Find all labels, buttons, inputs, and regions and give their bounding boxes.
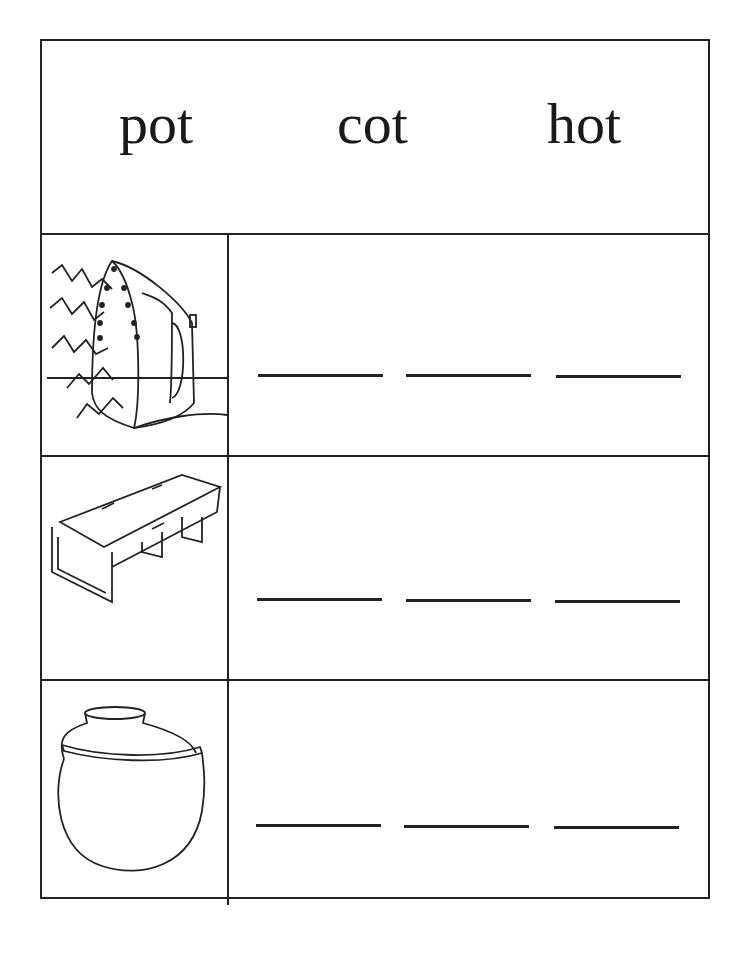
answer-blank[interactable] [404, 825, 529, 828]
answer-blank[interactable] [556, 375, 681, 378]
answer-blank[interactable] [406, 599, 531, 602]
row-cot [42, 457, 708, 681]
answer-blank[interactable] [555, 600, 680, 603]
answer-blank[interactable] [554, 826, 679, 829]
pot-picture-cell [42, 681, 229, 905]
word-bank: pot cot hot [42, 41, 708, 235]
word-pot: pot [119, 95, 193, 153]
iron-icon [42, 233, 229, 457]
worksheet-table: pot cot hot [40, 39, 710, 899]
answer-blank[interactable] [258, 374, 383, 377]
word-hot: hot [547, 95, 621, 153]
cot-picture-cell [42, 457, 229, 679]
iron-picture-cell [42, 233, 229, 455]
answer-blank[interactable] [406, 374, 531, 377]
pot-icon [42, 681, 229, 901]
word-cot: cot [337, 95, 408, 153]
cot-icon [42, 457, 229, 681]
answer-blank[interactable] [257, 598, 382, 601]
row-iron [42, 233, 708, 457]
answer-blank[interactable] [256, 824, 381, 827]
row-pot [42, 681, 708, 905]
